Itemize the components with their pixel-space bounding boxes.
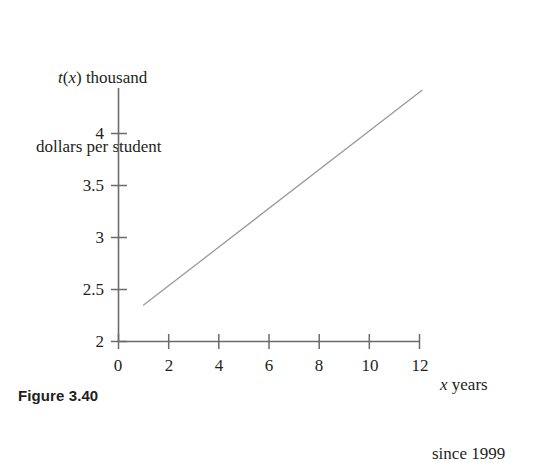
x-tick-label-0: 0 [114, 357, 123, 374]
x-axis-label-line2: since 1999 [432, 442, 557, 463]
figure-caption: Figure 3.40 [18, 387, 98, 404]
y-tick-label-3-5: 3.5 [56, 177, 104, 194]
y-tick-label-3: 3 [66, 229, 104, 246]
x-tick-label-10: 10 [362, 357, 379, 374]
y-tick-label-2-5: 2.5 [56, 281, 104, 298]
x-axis-label-line1-rest: years [448, 375, 488, 394]
y-tick-label-2: 2 [66, 333, 104, 350]
y-tick-label-4: 4 [66, 125, 104, 142]
x-axis-label-var: x [440, 375, 448, 394]
x-tick-label-2: 2 [165, 357, 174, 374]
x-tick-label-4: 4 [215, 357, 224, 374]
x-tick-label-6: 6 [265, 357, 274, 374]
x-tick-label-8: 8 [315, 357, 324, 374]
x-axis-label: x years since 1999 [432, 327, 557, 463]
x-axis-label-line1: x years [432, 373, 557, 396]
x-tick-label-12: 12 [412, 357, 429, 374]
data-line-t-of-x [144, 90, 422, 305]
